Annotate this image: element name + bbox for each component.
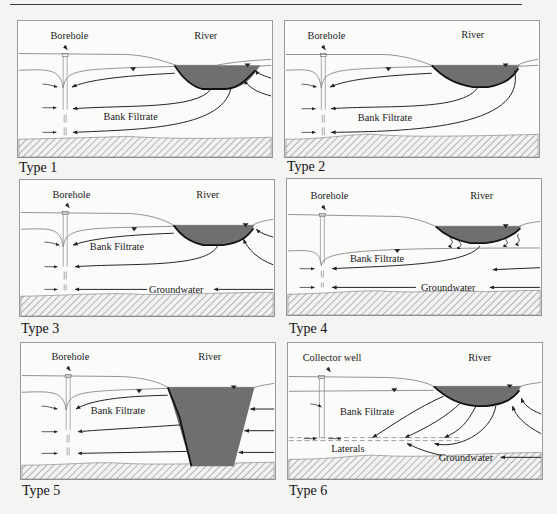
type-1-diagram: Borehole River Bank Filtrate bbox=[18, 21, 272, 157]
caption-type-4: Type 4 bbox=[289, 322, 327, 336]
well-label: Borehole bbox=[308, 30, 346, 41]
river-body bbox=[168, 387, 255, 466]
bedrock-layer bbox=[288, 290, 540, 315]
caption-type-3: Type 3 bbox=[21, 322, 59, 336]
type-4-diagram: Borehole River Bank Filtrate Groundwater bbox=[287, 179, 541, 315]
caption-type-6: Type 6 bbox=[289, 484, 327, 498]
flow-label-groundwater: Groundwater bbox=[149, 284, 204, 295]
river-label: River bbox=[468, 352, 492, 363]
bedrock-layer bbox=[286, 134, 538, 157]
panel-type-1: Borehole River Bank Filtrate bbox=[17, 20, 273, 158]
river-label: River bbox=[198, 351, 222, 362]
flow-label-bank-filtrate: Bank Filtrate bbox=[90, 241, 145, 252]
river-label: River bbox=[470, 190, 494, 201]
well-label: Borehole bbox=[50, 30, 88, 41]
river-label: River bbox=[194, 30, 218, 41]
river-label: River bbox=[461, 29, 485, 40]
type-5-diagram: Borehole River Bank Filtrate bbox=[21, 343, 275, 479]
laterals-lines bbox=[289, 438, 461, 441]
well-label: Borehole bbox=[311, 190, 349, 201]
river-label: River bbox=[196, 189, 220, 200]
flow-label-bank-filtrate: Bank Filtrate bbox=[358, 112, 413, 123]
caption-type-5: Type 5 bbox=[22, 484, 60, 498]
caption-type-1: Type 1 bbox=[19, 161, 57, 175]
caption-type-2: Type 2 bbox=[287, 160, 325, 174]
bedrock-layer bbox=[19, 136, 271, 157]
panel-type-6: Collector well River Bank Filtrate Later… bbox=[287, 342, 543, 480]
river-body bbox=[174, 225, 255, 245]
flow-label-bank-filtrate: Bank Filtrate bbox=[340, 406, 395, 417]
flow-label-bank-filtrate: Bank Filtrate bbox=[104, 111, 159, 122]
flow-label-groundwater: Groundwater bbox=[421, 282, 476, 293]
top-rule bbox=[10, 4, 522, 5]
panel-type-4: Borehole River Bank Filtrate Groundwater bbox=[286, 178, 542, 316]
panel-type-2: Borehole River Bank Filtrate bbox=[284, 20, 540, 158]
type-6-diagram: Collector well River Bank Filtrate Later… bbox=[288, 343, 542, 479]
well-label: Collector well bbox=[303, 352, 362, 363]
type-2-diagram: Borehole River Bank Filtrate bbox=[285, 21, 539, 157]
flow-label-laterals: Laterals bbox=[331, 443, 364, 454]
flow-label-bank-filtrate: Bank Filtrate bbox=[91, 405, 146, 416]
panel-type-5: Borehole River Bank Filtrate bbox=[20, 342, 276, 480]
flow-label-bank-filtrate: Bank Filtrate bbox=[350, 253, 405, 264]
well-label: Borehole bbox=[52, 189, 90, 200]
bedrock-layer bbox=[289, 452, 541, 479]
well-label: Borehole bbox=[51, 351, 89, 362]
panel-type-3: Borehole River Bank Filtrate Groundwater bbox=[19, 179, 275, 317]
bedrock-layer bbox=[21, 292, 273, 316]
bedrock-layer bbox=[22, 462, 274, 479]
flow-label-groundwater: Groundwater bbox=[439, 452, 494, 463]
type-3-diagram: Borehole River Bank Filtrate Groundwater bbox=[20, 180, 274, 316]
